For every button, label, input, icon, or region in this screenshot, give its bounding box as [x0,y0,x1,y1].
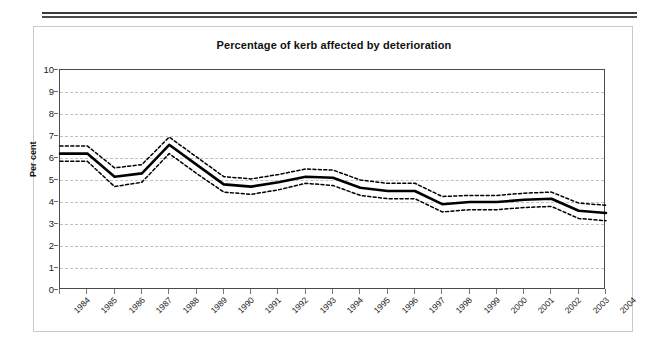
x-tick-mark [387,289,388,294]
rule-line-bottom [42,16,637,18]
x-tick-label: 2002 [563,295,583,315]
x-tick-mark [359,289,360,294]
x-tick-label: 1984 [72,295,92,315]
x-tick-mark [605,289,606,294]
y-tick-mark [54,179,58,180]
x-tick-mark [86,289,87,294]
x-tick-label: 2001 [536,295,556,315]
data-series-lines [60,70,606,290]
y-tick-mark [54,201,58,202]
chart-title: Percentage of kerb affected by deteriora… [34,39,634,51]
x-tick-label: 2000 [508,295,528,315]
x-tick-mark [168,289,169,294]
x-tick-label: 1989 [208,295,228,315]
x-tick-mark [332,289,333,294]
x-tick-mark [114,289,115,294]
chart-card: Percentage of kerb affected by deteriora… [33,26,633,332]
x-tick-label: 1985 [99,295,119,315]
x-tick-mark [250,289,251,294]
x-tick-mark [277,289,278,294]
x-tick-mark [59,289,60,294]
series-line [60,154,606,221]
y-axis-tick-labels: 012345678910 [34,69,58,289]
y-tick-mark [54,91,58,92]
x-tick-mark [550,289,551,294]
top-double-rule [42,12,637,18]
x-tick-label: 1993 [317,295,337,315]
x-tick-label: 2004 [618,295,638,315]
x-tick-label: 1988 [181,295,201,315]
x-tick-label: 1987 [153,295,173,315]
y-tick-mark [54,135,58,136]
y-tick-mark [54,113,58,114]
x-tick-mark [414,289,415,294]
x-tick-mark [469,289,470,294]
x-tick-label: 1995 [372,295,392,315]
x-tick-label: 1997 [426,295,446,315]
y-tick-label: 10 [43,64,54,75]
y-tick-mark [54,245,58,246]
x-tick-label: 1990 [235,295,255,315]
x-tick-mark [441,289,442,294]
x-tick-mark [305,289,306,294]
x-tick-label: 1992 [290,295,310,315]
x-tick-label: 1996 [399,295,419,315]
x-tick-label: 2003 [590,295,610,315]
y-tick-mark [54,69,58,70]
chart-page: Percentage of kerb affected by deteriora… [0,0,657,358]
x-tick-mark [196,289,197,294]
x-tick-label: 1991 [263,295,283,315]
x-tick-mark [223,289,224,294]
x-tick-label: 1999 [481,295,501,315]
x-tick-mark [578,289,579,294]
y-tick-mark [54,289,58,290]
y-tick-mark [54,223,58,224]
series-line [60,145,606,213]
x-tick-label: 1986 [126,295,146,315]
series-line [60,137,606,205]
x-axis-tick-labels: 1984198519861987198819891990199119921993… [59,295,605,339]
x-tick-mark [496,289,497,294]
y-tick-mark [54,267,58,268]
x-tick-label: 1994 [345,295,365,315]
x-tick-mark [141,289,142,294]
x-tick-mark [523,289,524,294]
x-tick-label: 1998 [454,295,474,315]
plot-area [59,69,605,289]
y-tick-mark [54,157,58,158]
